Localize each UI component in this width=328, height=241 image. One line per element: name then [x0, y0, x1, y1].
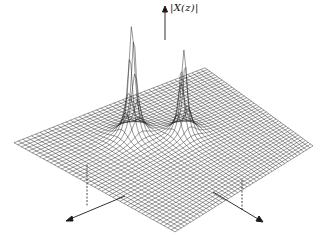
axes — [66, 6, 263, 222]
left-axis — [70, 196, 125, 219]
left-axis-arrowhead-icon — [66, 216, 73, 221]
right-axis — [213, 192, 258, 219]
surface-plot — [0, 0, 328, 241]
right-axis-arrowhead-icon — [256, 216, 263, 222]
z-axis-label: |X(z)| — [170, 2, 199, 13]
mesh-lines — [14, 27, 313, 232]
vertical-axis-arrowhead-icon — [163, 6, 168, 12]
surface-mesh — [14, 27, 313, 232]
